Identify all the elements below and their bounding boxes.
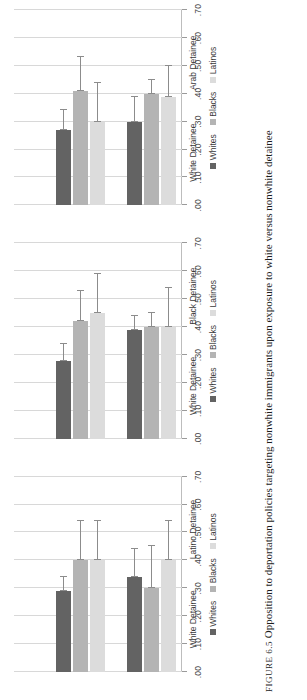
gridline (14, 270, 182, 271)
axis-tick (182, 9, 187, 10)
legend-label: Whites (208, 601, 218, 627)
gridline (14, 476, 182, 477)
error-bar-cap-low (60, 590, 67, 591)
error-bar-line (80, 521, 81, 560)
error-bar-cap-high (77, 290, 84, 291)
gridline (14, 242, 182, 243)
axis-tick (182, 149, 187, 150)
error-bar-cap-low (165, 559, 172, 560)
error-bar-cap-low (94, 559, 101, 560)
bar-blacks (144, 94, 159, 206)
legend-item-whites: Whites (208, 368, 218, 402)
axis-tick (182, 615, 187, 616)
legend-swatch-icon (210, 119, 216, 125)
legend-label: Latinos (208, 513, 218, 540)
axis-tick (182, 93, 187, 94)
rotated-page-wrapper: .00.10.20.30.40.50.60.70White DetaineeLa… (0, 0, 307, 700)
category-labels: White DetaineeLatino Detainee (188, 477, 202, 672)
legend-swatch-icon (210, 586, 216, 592)
error-bar-line (80, 291, 81, 322)
figure-caption-text: Opposition to deportation policies targe… (262, 130, 274, 638)
bar-blacks (144, 588, 159, 672)
error-bar-line (134, 97, 135, 122)
error-bar-cap-high (77, 520, 84, 521)
category-labels: White DetaineeArab Detainee (188, 10, 202, 205)
error-bar-cap-low (165, 326, 172, 327)
legend-swatch-icon (210, 396, 216, 402)
axis-tick (182, 37, 187, 38)
legend-label: Whites (208, 134, 218, 160)
error-bar-cap-low (131, 329, 138, 330)
error-bar-cap-high (94, 82, 101, 83)
bar-blacks (73, 91, 88, 205)
error-bar-cap-low (165, 96, 172, 97)
bar-whites (127, 577, 142, 672)
axis-tick (182, 354, 187, 355)
legend-label: Whites (208, 368, 218, 394)
error-bar-cap-high (60, 576, 67, 577)
error-bar-cap-high (165, 520, 172, 521)
legend-label: Blacks (208, 558, 218, 583)
error-bar-cap-low (60, 360, 67, 361)
gridline (14, 504, 182, 505)
legend-item-whites: Whites (208, 601, 218, 635)
error-bar-cap-low (131, 121, 138, 122)
error-bar-line (168, 66, 169, 97)
error-bar-cap-low (131, 576, 138, 577)
bar-whites (127, 330, 142, 439)
axis-tick (182, 531, 187, 532)
gridline (14, 9, 182, 10)
bar-blacks (73, 321, 88, 438)
error-bar-cap-high (131, 315, 138, 316)
error-bar-cap-high (165, 65, 172, 66)
category-label: Latino Detainee (188, 500, 198, 560)
legend-swatch-icon (210, 163, 216, 169)
error-bar-line (134, 316, 135, 330)
error-bar-cap-low (77, 559, 84, 560)
error-bar-cap-high (77, 56, 84, 57)
category-label: Arab Detainee (188, 36, 198, 90)
gridline (14, 37, 182, 38)
axis-tick (182, 242, 187, 243)
bar-latinos (90, 313, 105, 439)
bar-latinos (90, 122, 105, 206)
error-bar-line (97, 274, 98, 313)
chart-panels: .00.10.20.30.40.50.60.70White DetaineeLa… (0, 0, 252, 700)
error-bar-line (168, 521, 169, 560)
axis-tick (182, 65, 187, 66)
legend-item-blacks: Blacks (208, 558, 218, 592)
category-label: Black Detainee (188, 268, 198, 325)
bar-latinos (161, 97, 176, 206)
legend-item-latinos: Latinos (208, 280, 218, 316)
category-labels: White DetaineeBlack Detainee (188, 243, 202, 438)
error-bar-line (151, 313, 152, 327)
legend-swatch-icon (210, 310, 216, 316)
bar-blacks (144, 327, 159, 439)
error-bar-cap-low (94, 312, 101, 313)
legend-swatch-icon (210, 353, 216, 359)
error-bar-cap-high (131, 96, 138, 97)
axis-tick (182, 504, 187, 505)
plot-area: .00.10.20.30.40.50.60.70 (14, 243, 182, 438)
legend-swatch-icon (210, 629, 216, 635)
error-bar-line (151, 80, 152, 94)
legend-label: Blacks (208, 92, 218, 117)
gridline (14, 65, 182, 66)
legend-swatch-icon (210, 77, 216, 83)
legend-item-latinos: Latinos (208, 513, 218, 549)
panel-latino-detainee: .00.10.20.30.40.50.60.70White DetaineeLa… (0, 467, 252, 700)
legend: WhitesBlacksLatinos (206, 243, 220, 438)
bar-latinos (161, 327, 176, 439)
error-bar-cap-high (148, 79, 155, 80)
error-bar-cap-high (148, 545, 155, 546)
error-bar-cap-high (60, 343, 67, 344)
axis-tick (182, 438, 187, 439)
legend: WhitesBlacksLatinos (206, 10, 220, 205)
figure-caption: FIGURE 6.5 Opposition to deportation pol… (262, 8, 276, 692)
error-bar-line (80, 57, 81, 90)
error-bar-line (63, 577, 64, 591)
axis-tick (182, 587, 187, 588)
error-bar-cap-low (94, 121, 101, 122)
error-bar-line (168, 288, 169, 327)
axis-tick (182, 298, 187, 299)
